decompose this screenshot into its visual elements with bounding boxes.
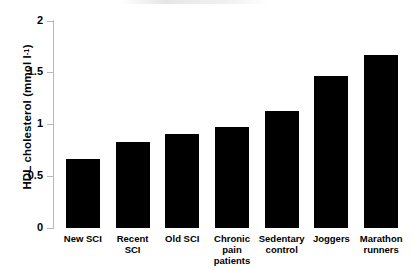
x-axis-category-label: Sedentary control (257, 233, 307, 255)
bar (116, 142, 150, 228)
bar (165, 134, 199, 228)
bar (364, 55, 398, 228)
bar (66, 159, 100, 229)
x-axis-category-label: Joggers (307, 233, 357, 244)
x-axis-category-label: Chronic pain patients (207, 233, 257, 266)
bar (215, 127, 249, 228)
x-axis-category-label: Old SCI (157, 233, 207, 244)
x-axis-category-label: New SCI (58, 233, 108, 244)
bar (314, 76, 348, 229)
bar-chart-figure: HDL cholesterol (mmol l-1) 00.511.52 New… (0, 0, 413, 270)
x-axis-category-label: Marathon runners (356, 233, 406, 255)
plot-area: New SCIRecent SCIOld SCIChronic pain pat… (0, 0, 413, 270)
bar (265, 111, 299, 228)
x-axis-category-label: Recent SCI (108, 233, 158, 255)
